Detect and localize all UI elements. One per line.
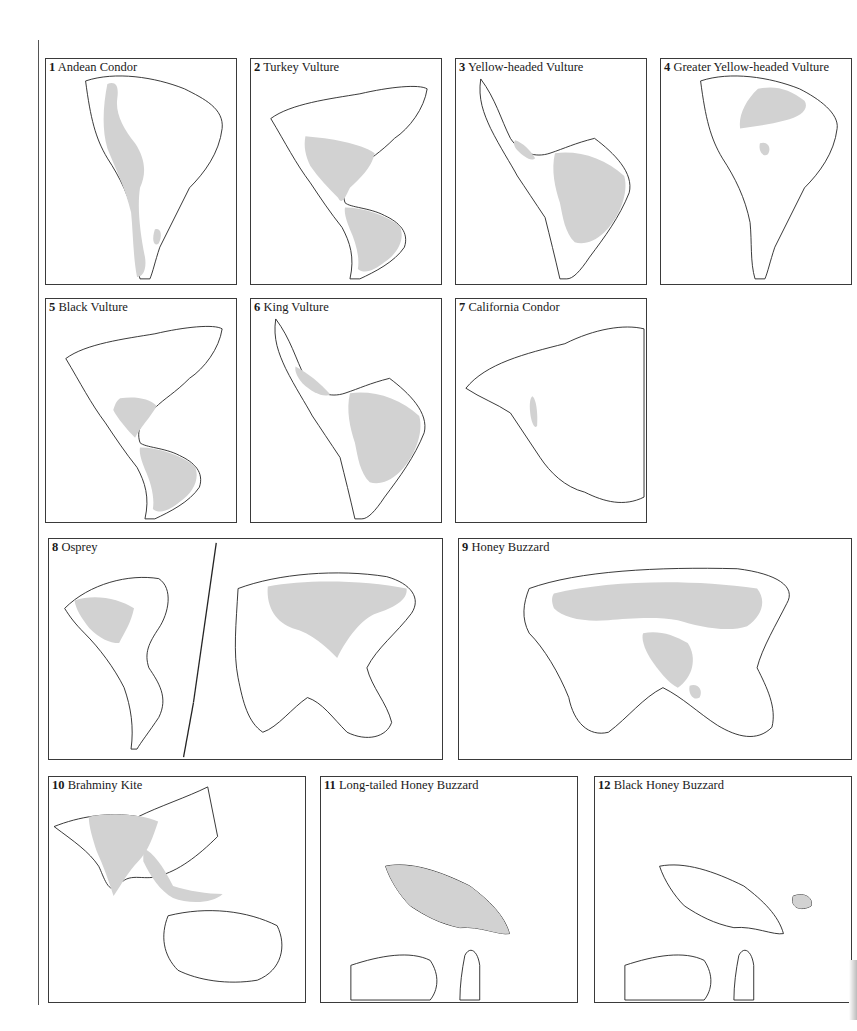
americas-map: [46, 299, 236, 522]
south-america-map: [661, 59, 851, 284]
americas-map: [456, 59, 646, 284]
hemisphere-divider: [193, 543, 216, 703]
americas-map: [251, 59, 441, 284]
map-title: 7 California Condor: [459, 300, 560, 315]
map-panel-black-honey-buzzard: 12 Black Honey Buzzard: [594, 776, 852, 1003]
map-title: 12 Black Honey Buzzard: [598, 778, 724, 793]
map-panel-greater-yellow-headed-vulture: 4 Greater Yellow-headed Vulture: [660, 58, 852, 285]
map-title: 8 Osprey: [52, 540, 97, 555]
new-guinea-map: [321, 777, 577, 1002]
north-america-map: [456, 299, 646, 522]
old-world-map: [459, 539, 851, 759]
new-guinea-map: [595, 777, 851, 1002]
page-margin-rule: [38, 40, 39, 1005]
map-panel-yellow-headed-vulture: 3 Yellow-headed Vulture: [455, 58, 647, 285]
map-title: 11 Long-tailed Honey Buzzard: [324, 778, 478, 793]
map-panel-california-condor: 7 California Condor: [455, 298, 647, 523]
map-title: 9 Honey Buzzard: [462, 540, 549, 555]
americas-map: [251, 299, 441, 522]
map-panel-osprey: 8 Osprey: [48, 538, 443, 760]
map-title: 1 Andean Condor: [49, 60, 137, 75]
south-asia-australia-map: [49, 777, 305, 1002]
map-panel-andean-condor: 1 Andean Condor: [45, 58, 237, 285]
map-title: 10 Brahminy Kite: [52, 778, 142, 793]
page-edge-shadow: [849, 960, 857, 1020]
map-title: 3 Yellow-headed Vulture: [459, 60, 583, 75]
map-panel-turkey-vulture: 2 Turkey Vulture: [250, 58, 442, 285]
map-panel-black-vulture: 5 Black Vulture: [45, 298, 237, 523]
map-panel-king-vulture: 6 King Vulture: [250, 298, 442, 523]
map-title: 2 Turkey Vulture: [254, 60, 339, 75]
map-panel-brahminy-kite: 10 Brahminy Kite: [48, 776, 306, 1003]
map-panel-long-tailed-honey-buzzard: 11 Long-tailed Honey Buzzard: [320, 776, 578, 1003]
map-title: 6 King Vulture: [254, 300, 329, 315]
map-panel-honey-buzzard: 9 Honey Buzzard: [458, 538, 852, 760]
map-title: 4 Greater Yellow-headed Vulture: [664, 60, 829, 75]
world-map-split: [49, 539, 442, 759]
south-america-map: [46, 59, 236, 284]
map-title: 5 Black Vulture: [49, 300, 128, 315]
